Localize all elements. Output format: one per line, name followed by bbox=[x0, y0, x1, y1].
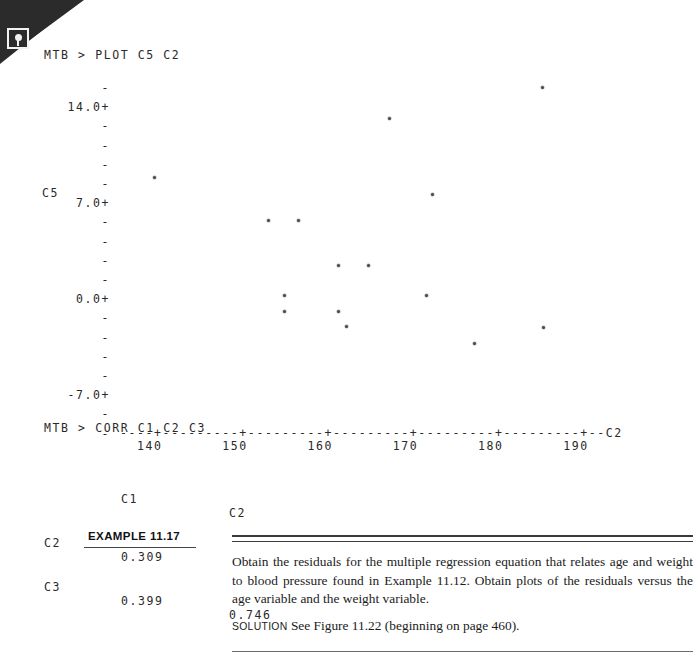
y-axis-tick-label: -7.0+ bbox=[32, 388, 110, 402]
example-tag: EXAMPLE 11.17 bbox=[88, 530, 180, 542]
y-axis-minor-tick: - bbox=[32, 158, 110, 172]
data-point bbox=[542, 326, 545, 329]
example-body-text: Obtain the residuals for the multiple re… bbox=[232, 553, 693, 609]
data-point bbox=[337, 264, 340, 267]
correlation-header-row: C1 C2 bbox=[44, 478, 78, 494]
y-axis-minor-tick: - bbox=[32, 254, 110, 268]
data-point bbox=[388, 117, 391, 120]
scan-marker-icon bbox=[7, 28, 29, 49]
y-axis-minor-tick: - bbox=[32, 311, 110, 325]
y-axis-minor-tick: - bbox=[32, 81, 110, 95]
example-tag-underline bbox=[84, 547, 196, 548]
example-top-rule bbox=[232, 535, 693, 542]
scan-marker-dot bbox=[15, 34, 22, 41]
data-point bbox=[345, 325, 348, 328]
y-axis-minor-tick: - bbox=[32, 407, 110, 421]
data-point bbox=[473, 342, 476, 345]
y-axis-tick-label: 7.0+ bbox=[32, 196, 110, 210]
x-axis-tick-labels: 140 150 160 170 180 190 bbox=[120, 439, 589, 453]
y-axis-tick-label: 14.0+ bbox=[32, 100, 110, 114]
data-point bbox=[297, 219, 300, 222]
data-point bbox=[283, 310, 286, 313]
y-axis-minor-tick: - bbox=[32, 331, 110, 345]
y-axis-minor-tick: - bbox=[32, 235, 110, 249]
data-point bbox=[367, 264, 370, 267]
scatter-plot: C5 -14.0+----7.0+----0.0+-----7.0+-- ---… bbox=[0, 60, 693, 390]
y-axis-minor-tick: - bbox=[32, 139, 110, 153]
y-axis-minor-tick: - bbox=[32, 215, 110, 229]
y-axis-tick-label: 0.0+ bbox=[32, 292, 110, 306]
data-point bbox=[337, 310, 340, 313]
data-point bbox=[267, 219, 270, 222]
data-point bbox=[425, 294, 428, 297]
example-bottom-rule bbox=[232, 651, 693, 652]
data-point bbox=[541, 86, 544, 89]
y-axis-minor-tick: - bbox=[32, 119, 110, 133]
y-axis-minor-tick: - bbox=[32, 273, 110, 287]
example-block: EXAMPLE 11.17 Obtain the residuals for t… bbox=[0, 525, 693, 659]
example-solution-line: SOLUTION See Figure 11.22 (beginning on … bbox=[232, 618, 693, 634]
correlation-header-c2: C2 bbox=[229, 506, 246, 520]
y-axis-minor-tick: - bbox=[32, 177, 110, 191]
y-axis-minor-tick: - bbox=[32, 350, 110, 364]
y-axis-minor-tick: - bbox=[32, 369, 110, 383]
minitab-corr-command: MTB > CORR C1 C2 C3 bbox=[44, 421, 206, 435]
solution-label: SOLUTION bbox=[232, 621, 288, 632]
data-point bbox=[431, 193, 434, 196]
correlation-header-c1: C1 bbox=[121, 492, 138, 506]
data-point bbox=[283, 294, 286, 297]
solution-text: See Figure 11.22 (beginning on page 460)… bbox=[291, 618, 520, 633]
data-point bbox=[153, 176, 156, 179]
